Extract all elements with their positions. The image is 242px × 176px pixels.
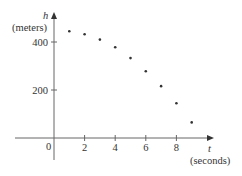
data-point bbox=[190, 121, 193, 124]
origin-label: 0 bbox=[46, 141, 51, 152]
x-axis-unit: (seconds) bbox=[190, 155, 231, 167]
x-tick-label: 4 bbox=[113, 142, 119, 153]
y-ticks: 200400 bbox=[32, 37, 57, 96]
data-point bbox=[175, 102, 178, 105]
data-point bbox=[68, 30, 71, 33]
data-point bbox=[145, 70, 148, 73]
data-points bbox=[68, 30, 193, 124]
data-point bbox=[160, 85, 163, 88]
x-tick-label: 6 bbox=[143, 142, 148, 153]
data-point bbox=[114, 46, 117, 49]
y-axis-symbol: h bbox=[43, 10, 48, 21]
chart: 2468 200400 0 h (meters) t (seconds) bbox=[0, 0, 242, 176]
x-axis-symbol: t bbox=[208, 143, 212, 154]
y-tick-label: 400 bbox=[32, 37, 48, 48]
data-point bbox=[83, 33, 86, 36]
x-tick-label: 2 bbox=[82, 142, 87, 153]
data-point bbox=[129, 57, 132, 60]
y-axis-arrow-icon bbox=[51, 12, 57, 19]
x-axis-arrow-icon bbox=[207, 135, 214, 141]
data-point bbox=[99, 38, 102, 41]
x-tick-label: 8 bbox=[174, 142, 179, 153]
y-tick-label: 200 bbox=[32, 85, 48, 96]
y-axis-unit: (meters) bbox=[12, 22, 47, 34]
